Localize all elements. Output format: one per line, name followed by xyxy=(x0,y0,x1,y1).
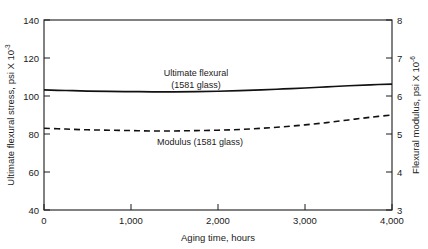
left-axis-ticks xyxy=(44,20,50,210)
left-tick-label: 80 xyxy=(28,129,39,140)
right-tick-label: 6 xyxy=(397,91,402,102)
flexural-properties-chart: 40 60 80 100 120 140 3 4 5 6 7 8 xyxy=(0,0,428,249)
modulus-annotation: Modulus (1581 glass) xyxy=(157,137,243,147)
right-axis-tick-labels: 3 4 5 6 7 8 xyxy=(397,15,402,216)
right-tick-label: 3 xyxy=(397,205,402,216)
plot-frame xyxy=(44,20,392,210)
right-tick-label: 4 xyxy=(397,167,402,178)
right-axis-title: Flexural modulus, psi X 10-6 xyxy=(409,56,421,174)
right-axis-title-exponent: -6 xyxy=(409,56,416,62)
modulus-annotation-line1: Modulus (1581 glass) xyxy=(157,137,243,147)
left-tick-label: 60 xyxy=(28,167,39,178)
x-tick-label: 0 xyxy=(41,215,46,226)
x-tick-label: 2,000 xyxy=(206,215,230,226)
left-tick-label: 120 xyxy=(23,53,39,64)
left-tick-label: 40 xyxy=(28,205,39,216)
x-axis-title: Aging time, hours xyxy=(181,232,255,243)
x-tick-label: 3,000 xyxy=(293,215,317,226)
chart-figure: 40 60 80 100 120 140 3 4 5 6 7 8 xyxy=(0,0,428,249)
left-axis-title-exponent: -3 xyxy=(4,44,11,50)
x-tick-label: 1,000 xyxy=(119,215,143,226)
x-axis-tick-labels: 0 1,000 2,000 3,000 4,000 xyxy=(41,215,404,226)
right-tick-label: 5 xyxy=(397,129,402,140)
right-tick-label: 8 xyxy=(397,15,402,26)
left-axis-title-text: Ultimate flexural stress, psi X 10 xyxy=(5,50,16,186)
left-tick-label: 140 xyxy=(23,15,39,26)
right-axis-title-text: Flexural modulus, psi X 10 xyxy=(410,62,421,174)
ultimate-flexural-annotation: Ultimate flexural (1581 glass) xyxy=(164,68,229,90)
left-axis-tick-labels: 40 60 80 100 120 140 xyxy=(23,15,39,216)
left-tick-label: 100 xyxy=(23,91,39,102)
ultimate-flexural-annotation-line1: Ultimate flexural xyxy=(164,68,229,78)
right-tick-label: 7 xyxy=(397,53,402,64)
series-modulus xyxy=(44,115,392,131)
ultimate-flexural-annotation-line2: (1581 glass) xyxy=(171,80,221,90)
x-tick-label: 4,000 xyxy=(380,215,404,226)
left-axis-title: Ultimate flexural stress, psi X 10-3 xyxy=(4,44,16,186)
x-axis-ticks xyxy=(44,204,392,210)
